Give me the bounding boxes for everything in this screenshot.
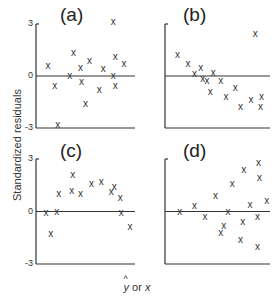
x-marker: x — [192, 200, 197, 211]
x-marker: x — [226, 206, 231, 217]
x-marker: x — [230, 178, 235, 189]
panel-label: (d) — [183, 140, 206, 162]
x-marker: x — [248, 199, 253, 210]
x-marker: x — [255, 211, 260, 222]
x-marker: x — [256, 157, 261, 168]
x-marker: x — [221, 220, 226, 231]
x-marker: x — [177, 206, 182, 217]
x-marker: x — [255, 241, 260, 252]
x-marker: x — [241, 164, 246, 175]
x-marker: x — [257, 172, 262, 183]
x-marker: x — [213, 190, 218, 201]
y-hat-symbol: y — [124, 281, 130, 293]
x-axis-label-or: or — [132, 281, 142, 293]
x-marker: x — [238, 234, 243, 245]
x-marker: x — [240, 216, 245, 227]
x-marker: x — [264, 195, 269, 206]
scatter-plot-area: xxxxxxxxxxxxxxxxx — [0, 0, 274, 303]
x-marker: x — [202, 211, 207, 222]
cropped-caption — [0, 298, 274, 303]
x-axis-label: y or x — [0, 281, 274, 293]
x-symbol: x — [145, 281, 151, 293]
